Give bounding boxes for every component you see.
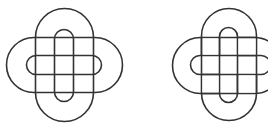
diagram-canvas xyxy=(0,0,268,131)
right-knot-figure xyxy=(0,0,268,131)
